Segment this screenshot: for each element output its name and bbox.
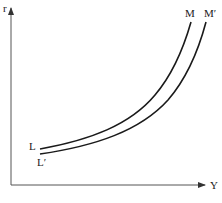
lm-curve: [40, 22, 191, 149]
curve-lm-start-label: L: [29, 141, 36, 152]
curve-lm-prime-end-label: M′: [204, 8, 216, 19]
diagram-canvas: [0, 0, 222, 203]
curve-lm-prime-start-label: L′: [37, 157, 46, 168]
curve-lm-end-label: M: [185, 8, 195, 19]
x-axis-label: Y: [210, 180, 218, 191]
y-axis-label: r: [3, 3, 7, 14]
lm-prime-curve: [40, 22, 206, 154]
